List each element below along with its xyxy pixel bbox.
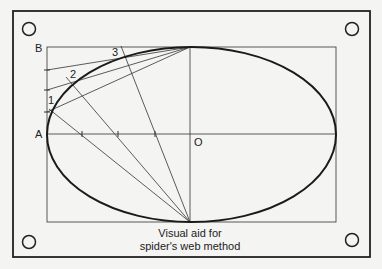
fan-line-top	[47, 47, 190, 90]
fan-line-bottom	[49, 109, 190, 222]
label-point-3: 3	[112, 46, 118, 58]
bounding-rectangle	[47, 47, 336, 222]
label-a: A	[35, 128, 43, 140]
corner-hole-bottom-right-icon	[346, 234, 359, 247]
caption-line-1: Visual aid for	[158, 227, 222, 239]
fan-line-bottom	[66, 77, 190, 222]
label-point-1: 1	[48, 94, 54, 106]
label-point-2: 2	[70, 68, 76, 80]
diagram-canvas: B A O 1 2 3 Visual aid for spider's web …	[0, 0, 382, 269]
corner-hole-bottom-left-icon	[23, 236, 36, 249]
ellipse-curve	[47, 47, 336, 222]
corner-hole-top-left-icon	[23, 23, 36, 36]
label-o: O	[194, 136, 203, 148]
corner-hole-top-right-icon	[346, 23, 359, 36]
caption-line-2: spider's web method	[140, 240, 241, 252]
label-b: B	[35, 42, 42, 54]
